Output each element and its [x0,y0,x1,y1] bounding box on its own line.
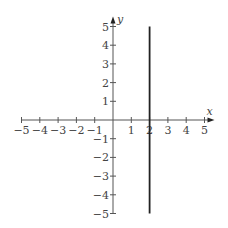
x-tick-label: −3 [50,124,66,137]
x-tick-label: −4 [32,124,48,137]
x-axis-label: x [207,105,214,118]
y-tick-label: −2 [93,151,109,164]
y-tick-label: 5 [102,21,109,34]
x-tick-label: 1 [128,124,135,137]
y-axis-label: y [116,13,124,26]
x-tick-label: 5 [201,124,208,137]
x-axis-arrow-icon [208,118,215,123]
y-tick-label: 3 [102,58,109,71]
y-tick-label: −1 [93,133,109,146]
x-tick-label: 4 [183,124,190,137]
y-tick-label: −3 [93,170,109,183]
x-tick-label: 3 [164,124,171,137]
y-tick-label: −4 [93,189,109,202]
y-tick-label: 4 [102,39,109,52]
y-tick-label: −5 [93,208,109,221]
y-tick-label: 2 [102,77,109,90]
y-axis-arrow-icon [111,17,116,24]
coordinate-plane: xy−5−4−3−2−112345−5−4−3−2−112345 [0,0,228,228]
y-tick-label: 1 [102,95,109,108]
axes [22,17,215,214]
x-tick-label: −5 [13,124,29,137]
x-tick-label: −2 [68,124,84,137]
